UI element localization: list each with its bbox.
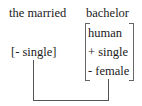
phrase-label: the married <box>9 6 66 20</box>
modifier-feature: [- single] <box>11 45 56 59</box>
connector-horizontal <box>33 100 109 101</box>
connector-left-vertical <box>33 60 34 101</box>
feature-human: human <box>88 26 122 40</box>
feature-plus-single: + single <box>88 45 128 59</box>
right-bracket <box>129 23 134 81</box>
word-label: bachelor <box>86 6 129 20</box>
connector-right-vertical <box>108 79 109 101</box>
feature-minus-female: - female <box>88 64 129 78</box>
